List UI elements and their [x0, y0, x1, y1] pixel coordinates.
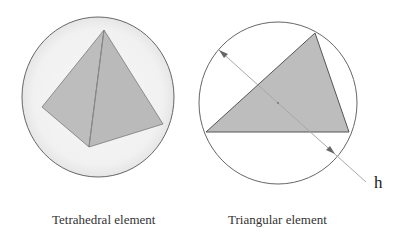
dimension-label-h: h	[374, 173, 383, 193]
figure: Tetrahedral element Triangular element h	[0, 0, 405, 238]
triangular-caption: Triangular element	[228, 212, 327, 228]
triangular-panel	[199, 22, 366, 184]
tetrahedral-caption: Tetrahedral element	[52, 212, 155, 228]
figure-canvas	[0, 0, 405, 238]
center-mark	[277, 102, 279, 104]
triangle	[206, 33, 349, 132]
tetrahedral-panel	[22, 17, 174, 177]
